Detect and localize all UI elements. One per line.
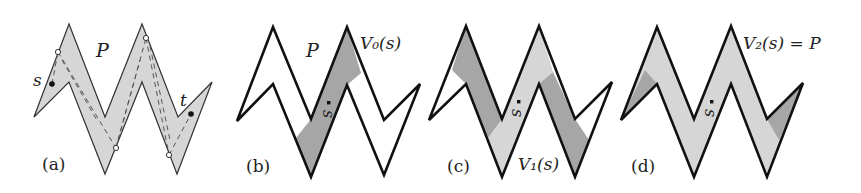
label-t: t [180,90,187,110]
caption-a: (a) [42,154,65,174]
label-v2: V₂(s) = P [743,33,821,53]
panel-a: s P t (a) [33,24,212,174]
point-s-dot [710,100,713,103]
point-s-dot [49,81,55,87]
label-s: s [701,109,720,117]
label-s: s [508,109,527,117]
label-v0: V₀(s) [360,33,401,53]
label-v1: V₁(s) [518,154,559,174]
label-p: P [95,39,110,61]
figure-canvas: s P t (a) s P V₀(s) (b) s V₁(s) (c) [0,0,861,193]
label-p: P [305,39,320,61]
caption-c: (c) [447,156,470,176]
caption-b: (b) [246,156,270,176]
label-s: s [33,70,42,90]
point-s-dot [517,100,520,103]
caption-d: (d) [631,156,655,176]
panel-c: s V₁(s) (c) [429,26,612,177]
point-t-dot [188,111,194,117]
panel-b: s P V₀(s) (b) [237,27,420,177]
point-s-dot [327,101,330,104]
label-s: s [319,110,338,118]
panel-d: s V₂(s) = P (d) [621,26,821,177]
